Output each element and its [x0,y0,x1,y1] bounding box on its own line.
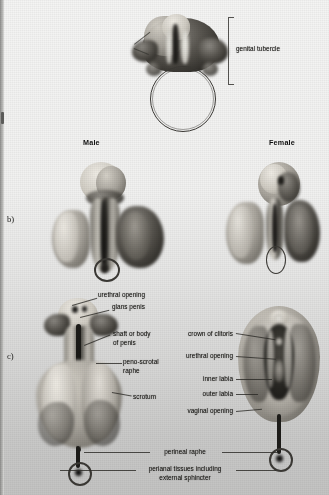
label-perineal-raphe: perineal raphe [146,448,224,456]
male-mature-genitalia-figure [36,298,128,458]
leader-perineal-raphe-left [84,452,150,453]
female-developing-genitalia-figure [226,162,322,282]
label-glans-penis: glans penis [112,303,145,311]
leader-outer-labia [236,394,258,395]
label-vaginal-opening: vaginal opening [153,407,233,415]
leader-perianal-tissues-right [236,470,276,471]
label-shaft-of-penis-line1: shaft or body [113,330,151,338]
genital-tubercle-bracket [228,17,234,85]
leader-peno-scrotal-raphe [96,363,122,364]
leader-perineal-raphe-right [222,452,278,453]
illustration-page: genital tubercle b) Male Female [0,0,329,495]
male-developing-genitalia-figure [52,162,168,282]
label-perianal-tissues-line1: perianal tissues including [133,465,237,473]
page-edge-strip [0,0,4,495]
column-header-female: Female [269,138,295,147]
female-mature-genitalia-figure [238,302,322,426]
leader-perianal-tissues-left [60,470,136,471]
undifferentiated-genital-tubercle-figure [128,14,238,132]
label-urethral-opening: urethral opening [98,291,145,299]
page-edge-mark [1,112,4,124]
label-inner-labia: inner labia [153,375,233,383]
label-perianal-tissues-line2: external sphincter [133,474,237,482]
row-key-b: b) [7,214,14,224]
label-crown-of-clitoris: crown of clitoris [153,330,233,338]
row-key-c: c) [7,351,14,361]
label-peno-scrotal-raphe-line2: raphe [123,367,140,375]
label-outer-labia: outer labia [153,390,233,398]
label-genital-tubercle: genital tubercle [236,45,280,53]
female-perineum-and-anus [238,420,322,476]
column-header-male: Male [83,138,100,147]
label-urethral-opening-female: urethral opening [153,352,233,360]
leader-inner-labia [236,379,272,380]
label-shaft-of-penis-line2: of penis [113,339,136,347]
